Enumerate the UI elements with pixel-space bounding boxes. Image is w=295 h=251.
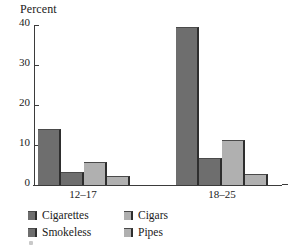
bar-pipes-18-25: [245, 174, 268, 185]
y-tick-label: 30: [19, 57, 30, 68]
legend-swatch-icon: [124, 228, 133, 237]
legend-label: Smokeless: [42, 226, 91, 239]
legend-item-cigarettes[interactable]: Cigarettes: [28, 207, 114, 224]
legend-swatch-icon: [28, 211, 37, 220]
bar-pipes-12-17: [107, 176, 130, 185]
legend-label: Pipes: [138, 226, 163, 239]
y-tick-mark: [35, 105, 39, 106]
plot-area: 40 30 20 10 0: [34, 25, 282, 185]
chart-legend: Cigarettes Cigars Smokeless Pipes: [28, 207, 168, 241]
bar-cigarettes-18-25: [176, 27, 199, 185]
y-axis-title: Percent: [20, 2, 57, 16]
scan-artifact: [29, 241, 33, 245]
x-axis-tail: [282, 184, 288, 185]
bar-smokeless-12-17: [61, 172, 84, 185]
y-tick-40: 40: [34, 25, 39, 26]
legend-item-smokeless[interactable]: Smokeless: [28, 224, 114, 241]
y-tick-label: 10: [19, 137, 30, 148]
y-tick-label: 0: [25, 177, 31, 188]
y-tick-label: 40: [19, 17, 30, 28]
bar-smokeless-18-25: [199, 158, 222, 185]
legend-item-cigars[interactable]: Cigars: [124, 207, 168, 224]
y-tick-mark: [35, 25, 39, 26]
legend-label: Cigarettes: [42, 209, 89, 222]
legend-label: Cigars: [138, 209, 168, 222]
bar-cigars-12-17: [84, 162, 107, 185]
x-tick-label-group-1: 12–17: [48, 188, 118, 200]
y-tick-mark: [35, 65, 39, 66]
bar-chart: Percent 40 30 20 10 0 12–17 18–25: [0, 0, 295, 251]
x-tick-label-group-2: 18–25: [187, 188, 257, 200]
y-tick-30: 30: [34, 65, 39, 66]
y-tick-mark: [35, 185, 39, 186]
x-axis-line: [33, 185, 282, 186]
legend-item-pipes[interactable]: Pipes: [124, 224, 168, 241]
legend-swatch-icon: [28, 228, 37, 237]
bar-cigarettes-12-17: [38, 129, 61, 185]
bar-cigars-18-25: [222, 140, 245, 185]
legend-swatch-icon: [124, 211, 133, 220]
y-tick-0: 0: [34, 185, 39, 186]
y-tick-label: 20: [19, 97, 30, 108]
y-tick-20: 20: [34, 105, 39, 106]
